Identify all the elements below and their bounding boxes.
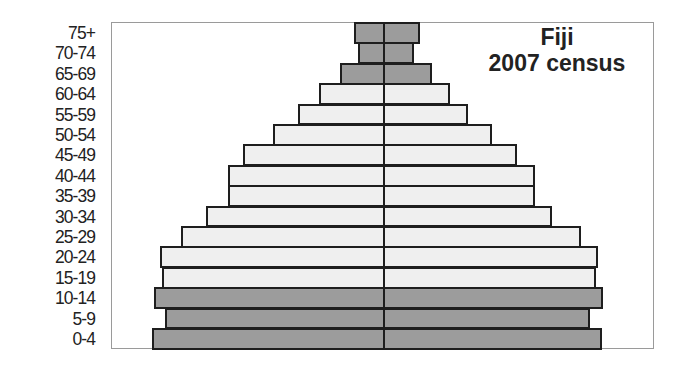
age-label: 50-54	[3, 125, 95, 145]
age-label: 55-59	[3, 105, 95, 125]
bar-left-40-44	[228, 165, 385, 187]
bar-right-65-69	[383, 63, 432, 85]
bar-left-60-64	[319, 83, 385, 105]
age-label: 5-9	[3, 309, 95, 329]
age-label: 75+	[3, 23, 95, 43]
bar-right-55-59	[383, 104, 468, 126]
bar-left-55-59	[298, 104, 385, 126]
bar-left-25-29	[181, 226, 385, 248]
chart-title: Fiji	[467, 24, 647, 51]
bar-left-70-74	[358, 42, 385, 64]
bar-right-0-4	[383, 328, 602, 350]
bar-right-40-44	[383, 165, 535, 187]
age-label: 0-4	[3, 329, 95, 349]
age-label: 25-29	[3, 227, 95, 247]
age-label: 10-14	[3, 288, 95, 308]
bar-right-5-9	[383, 308, 590, 330]
bar-right-70-74	[383, 42, 414, 64]
center-axis-line	[383, 22, 385, 349]
bar-right-25-29	[383, 226, 581, 248]
age-label: 30-34	[3, 207, 95, 227]
bar-left-15-19	[162, 267, 385, 289]
bar-right-50-54	[383, 124, 492, 146]
age-label: 20-24	[3, 247, 95, 267]
chart-subtitle: 2007 census	[467, 50, 647, 77]
bar-left-30-34	[206, 206, 385, 228]
bar-right-75+	[383, 22, 420, 44]
bar-left-5-9	[165, 308, 385, 330]
bar-right-10-14	[383, 287, 603, 309]
bar-right-35-39	[383, 185, 535, 207]
age-label: 35-39	[3, 186, 95, 206]
bar-right-20-24	[383, 246, 598, 268]
age-label: 15-19	[3, 268, 95, 288]
bar-left-20-24	[160, 246, 385, 268]
age-label: 65-69	[3, 64, 95, 84]
bar-left-0-4	[152, 328, 385, 350]
age-label: 70-74	[3, 43, 95, 63]
bar-right-60-64	[383, 83, 450, 105]
bar-right-15-19	[383, 267, 596, 289]
bar-left-75+	[354, 22, 385, 44]
bar-left-35-39	[228, 185, 385, 207]
bar-right-30-34	[383, 206, 552, 228]
bar-left-10-14	[154, 287, 385, 309]
bar-left-45-49	[243, 144, 385, 166]
bar-left-65-69	[340, 63, 385, 85]
age-label: 45-49	[3, 145, 95, 165]
age-label: 60-64	[3, 84, 95, 104]
bar-right-45-49	[383, 144, 517, 166]
age-label: 40-44	[3, 166, 95, 186]
bar-left-50-54	[273, 124, 385, 146]
